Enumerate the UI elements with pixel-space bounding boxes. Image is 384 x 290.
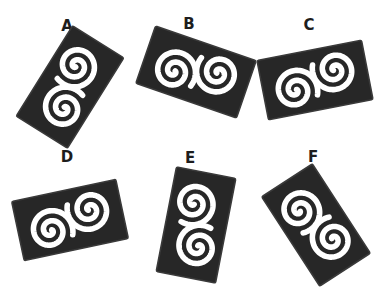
spiral-tile-d[interactable] — [11, 178, 130, 261]
tile-graphic-f — [261, 163, 372, 287]
figure-label-c: C — [303, 18, 314, 33]
spiral-tile-c[interactable] — [256, 39, 374, 120]
spiral-tile-a[interactable] — [15, 25, 125, 149]
spiral-tile-f[interactable] — [261, 163, 372, 287]
figure-label-b: B — [183, 17, 194, 32]
tile-graphic-b — [135, 25, 257, 119]
tile-graphic-a — [15, 25, 125, 149]
figure-label-e: E — [185, 151, 195, 166]
spiral-tile-b[interactable] — [135, 25, 257, 119]
tile-graphic-e — [155, 166, 236, 284]
figure-sheet: ABCDEF — [0, 0, 384, 290]
spiral-tile-e[interactable] — [155, 166, 236, 284]
tile-graphic-c — [256, 39, 374, 120]
tile-graphic-d — [11, 178, 130, 261]
figure-label-d: D — [61, 150, 73, 165]
